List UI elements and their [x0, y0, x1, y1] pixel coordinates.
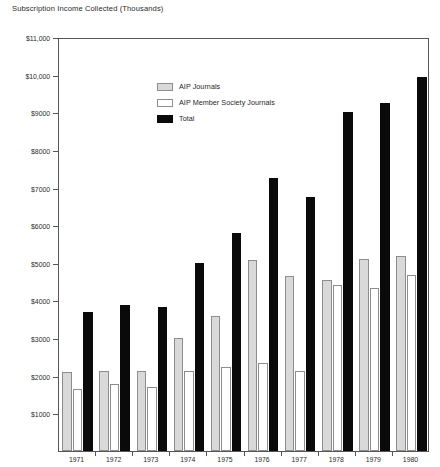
x-tick-label: 1974	[180, 456, 195, 463]
bar-1979-series-2	[370, 288, 380, 451]
y-tick-label: $5000	[31, 260, 50, 267]
bar-1973-series-3	[158, 307, 168, 451]
x-tick-label: 1975	[217, 456, 232, 463]
x-tick-mark	[206, 452, 207, 456]
x-tick-mark	[318, 452, 319, 456]
bar-1973-series-2	[147, 387, 157, 451]
bar-1980-series-2	[407, 275, 417, 451]
bar-1974-series-1	[174, 338, 184, 451]
x-tick-mark	[281, 452, 282, 456]
bar-1977-series-2	[295, 371, 305, 451]
x-tick-label: 1978	[329, 456, 344, 463]
x-tick-label: 1976	[254, 456, 269, 463]
x-tick-label: 1977	[292, 456, 307, 463]
x-tick-mark	[392, 452, 393, 456]
legend-item-aip: AIP Journals	[157, 82, 275, 91]
x-axis: 1971197219731974197519761977197819791980	[58, 452, 429, 467]
bar-chart: Subscription Income Collected (Thousands…	[0, 0, 440, 467]
legend-item-member: AIP Member Society Journals	[157, 98, 275, 107]
x-tick-mark	[244, 452, 245, 456]
legend-item-total: Total	[157, 114, 275, 123]
x-tick-mark	[132, 452, 133, 456]
y-tick-label: $10,000	[25, 72, 50, 79]
bar-1978-series-1	[322, 280, 332, 451]
legend-label: AIP Member Society Journals	[179, 98, 275, 107]
x-tick-mark	[355, 452, 356, 456]
bar-1972-series-3	[120, 305, 130, 451]
bar-1972-series-1	[99, 371, 109, 451]
x-tick-label: 1971	[69, 456, 84, 463]
bar-1971-series-2	[73, 389, 83, 451]
y-tick-label: $4000	[31, 298, 50, 305]
bar-1974-series-2	[184, 371, 194, 451]
x-tick-label: 1980	[403, 456, 418, 463]
bar-1976-series-3	[269, 178, 279, 451]
bar-1978-series-3	[343, 112, 353, 451]
bar-1980-series-1	[396, 256, 406, 451]
bar-1976-series-1	[248, 260, 258, 451]
bar-1975-series-3	[232, 233, 242, 451]
bar-1974-series-3	[195, 263, 205, 451]
bar-1971-series-1	[62, 372, 72, 451]
y-tick-label: $1000	[31, 411, 50, 418]
y-tick-label: $9000	[31, 110, 50, 117]
y-tick-label: $8000	[31, 147, 50, 154]
y-axis: $1000$2000$3000$4000$5000$6000$7000$8000…	[0, 0, 58, 467]
plot-area: AIP JournalsAIP Member Society JournalsT…	[58, 38, 429, 452]
bar-1979-series-1	[359, 259, 369, 451]
legend-swatch-member-icon	[157, 99, 173, 107]
x-tick-mark	[95, 452, 96, 456]
legend-label: Total	[179, 114, 194, 123]
y-tick-label: $3000	[31, 336, 50, 343]
y-tick-label: $11,000	[26, 35, 50, 42]
bar-1977-series-3	[306, 197, 316, 451]
legend-swatch-aip-icon	[157, 83, 173, 91]
bar-1977-series-1	[285, 276, 295, 451]
legend-swatch-total-icon	[157, 115, 173, 123]
bar-1978-series-2	[333, 285, 343, 451]
bar-1975-series-2	[221, 367, 231, 451]
bar-1971-series-3	[83, 312, 93, 451]
x-tick-label: 1979	[366, 456, 381, 463]
bar-1976-series-2	[258, 363, 268, 451]
x-tick-label: 1972	[106, 456, 121, 463]
bar-1973-series-1	[137, 371, 147, 451]
x-tick-label: 1973	[143, 456, 158, 463]
y-tick-label: $7000	[31, 185, 50, 192]
chart-legend: AIP JournalsAIP Member Society JournalsT…	[157, 82, 275, 123]
bar-1980-series-3	[417, 77, 427, 451]
bar-1972-series-2	[110, 384, 120, 451]
x-tick-mark	[169, 452, 170, 456]
legend-label: AIP Journals	[179, 82, 220, 91]
bar-1979-series-3	[380, 103, 390, 451]
y-tick-label: $2000	[31, 373, 50, 380]
bar-1975-series-1	[211, 316, 221, 451]
y-tick-label: $6000	[31, 223, 50, 230]
